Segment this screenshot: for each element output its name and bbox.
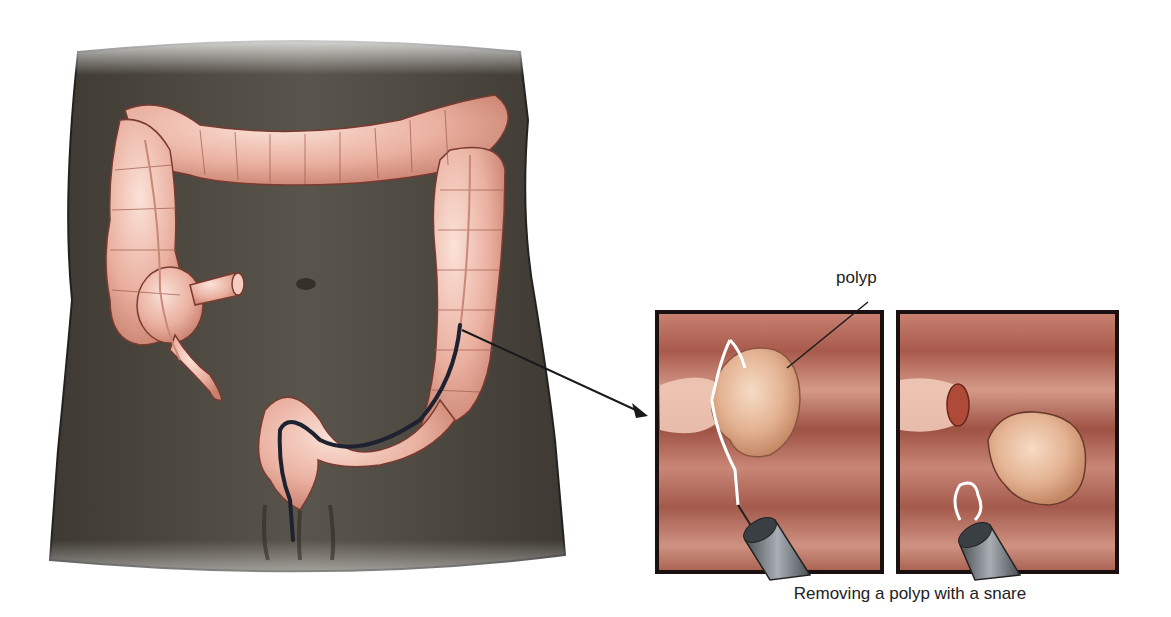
cecum: [137, 267, 203, 343]
panel-polyp-removed: [898, 312, 1117, 580]
polyp-label: polyp: [836, 268, 877, 288]
navel: [296, 278, 316, 290]
colonoscopy-illustration: [0, 0, 1171, 617]
cut-stalk: [947, 384, 969, 426]
figure-caption: Removing a polyp with a snare: [740, 584, 1080, 604]
panel-snare-around-polyp: [657, 302, 882, 580]
